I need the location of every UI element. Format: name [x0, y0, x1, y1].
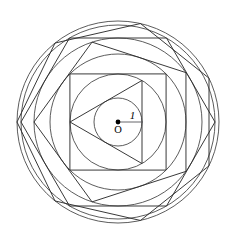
geometry-figure: 1 O: [0, 0, 234, 242]
radius-length-label: 1: [130, 109, 136, 121]
nested-polygons-diagram: 1 O: [0, 0, 234, 242]
heptagon: [17, 24, 209, 221]
center-point-label: O: [114, 124, 122, 135]
pentagon: [34, 42, 186, 202]
